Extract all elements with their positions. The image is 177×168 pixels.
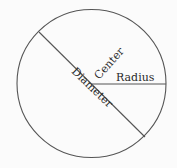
radius-label: Radius (116, 71, 155, 84)
circle-diagram: Center Radius Diameter (0, 0, 177, 168)
